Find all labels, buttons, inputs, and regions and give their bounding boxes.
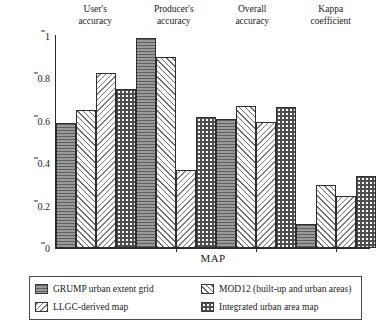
legend-item-mod12: MOD12 (built-up and urban areas) bbox=[201, 284, 356, 294]
bar-group-users-accuracy bbox=[56, 36, 136, 248]
legend-swatch-grump-icon bbox=[35, 284, 48, 294]
bar-group-overall-accuracy bbox=[216, 36, 296, 248]
bar-integrated bbox=[116, 89, 136, 248]
bar-groups bbox=[56, 36, 370, 248]
y-tick-label-0.4: 0.4 bbox=[38, 158, 57, 169]
y-tick-label-1: 1 bbox=[45, 31, 56, 42]
x-axis-line bbox=[55, 248, 370, 249]
category-header-line-2: coefficient bbox=[292, 16, 371, 28]
legend-item-integrated: Integrated urban area map bbox=[201, 302, 356, 312]
bar-integrated bbox=[196, 117, 216, 248]
category-header-producers-accuracy: Producer's accuracy bbox=[135, 4, 214, 34]
bar-llgc bbox=[256, 122, 276, 248]
bar-grump bbox=[136, 38, 156, 248]
bar-mod12 bbox=[236, 106, 256, 248]
legend-swatch-mod12-icon bbox=[201, 284, 214, 294]
y-tick-label-0.6: 0.6 bbox=[38, 115, 57, 126]
bar-grump bbox=[296, 224, 316, 248]
legend-item-llgc: LLGC-derived map bbox=[35, 302, 201, 312]
bar-mod12 bbox=[156, 57, 176, 248]
bar-group-kappa-coefficient bbox=[296, 36, 376, 248]
legend: GRUMP urban extent grid MOD12 (built-up … bbox=[29, 276, 362, 320]
category-header-line-1: User's bbox=[56, 4, 135, 16]
category-header-line-1: Overall bbox=[213, 4, 292, 16]
bar-mod12 bbox=[76, 110, 96, 248]
y-tick-mark bbox=[41, 31, 45, 32]
plot-area: 0 0.2 0.4 0.6 0.8 1 bbox=[56, 36, 370, 248]
legend-swatch-llgc-icon bbox=[35, 302, 48, 312]
bar-integrated bbox=[356, 176, 376, 248]
y-tick-label-0.2: 0.2 bbox=[38, 200, 57, 211]
y-tick-mark bbox=[41, 243, 45, 244]
category-header-line-2: accuracy bbox=[213, 16, 292, 28]
bar-group-producers-accuracy bbox=[136, 36, 216, 248]
bar-grump bbox=[216, 119, 236, 248]
bar-chart-figure: User's accuracy Producer's accuracy Over… bbox=[0, 0, 382, 333]
x-axis-label: MAP bbox=[56, 252, 370, 264]
category-headers: User's accuracy Producer's accuracy Over… bbox=[56, 4, 370, 34]
category-header-line-1: Producer's bbox=[135, 4, 214, 16]
category-header-overall-accuracy: Overall accuracy bbox=[213, 4, 292, 34]
legend-swatch-integrated-icon bbox=[201, 302, 214, 312]
bar-mod12 bbox=[316, 185, 336, 248]
category-header-kappa-coefficient: Kappa coefficient bbox=[292, 4, 371, 34]
legend-label-mod12: MOD12 (built-up and urban areas) bbox=[219, 284, 351, 294]
y-tick-label-0: 0 bbox=[45, 243, 56, 254]
category-header-line-2: accuracy bbox=[56, 16, 135, 28]
category-header-line-2: accuracy bbox=[135, 16, 214, 28]
bar-llgc bbox=[336, 196, 356, 248]
y-tick-mark bbox=[34, 115, 38, 116]
bar-llgc bbox=[96, 73, 116, 248]
category-header-line-1: Kappa bbox=[292, 4, 371, 16]
legend-label-llgc: LLGC-derived map bbox=[53, 302, 128, 312]
legend-label-integrated: Integrated urban area map bbox=[219, 302, 318, 312]
bar-integrated bbox=[276, 107, 296, 248]
y-tick-mark bbox=[34, 73, 38, 74]
legend-item-grump: GRUMP urban extent grid bbox=[35, 284, 201, 294]
x-tick-mark bbox=[176, 248, 177, 252]
y-tick-label-0.8: 0.8 bbox=[38, 73, 57, 84]
bar-grump bbox=[56, 123, 76, 248]
x-tick-mark bbox=[256, 248, 257, 252]
y-tick-mark bbox=[34, 158, 38, 159]
bar-llgc bbox=[176, 170, 196, 248]
y-tick-mark bbox=[34, 200, 38, 201]
legend-label-grump: GRUMP urban extent grid bbox=[53, 284, 154, 294]
category-header-users-accuracy: User's accuracy bbox=[56, 4, 135, 34]
x-tick-mark bbox=[336, 248, 337, 252]
